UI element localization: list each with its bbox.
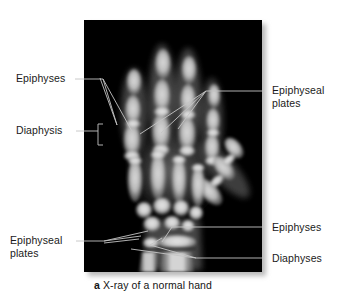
label-epiphyseal-plates-upper-right: Epiphyseal plates <box>272 84 324 109</box>
label-epiphyseal-plates-lower-left: Epiphyseal plates <box>10 234 62 259</box>
figure-root: Epiphyses Diaphysis Epiphyseal plates Ep… <box>0 0 339 304</box>
caption-text: X-ray of a normal hand <box>100 279 212 291</box>
label-diaphysis-left: Diaphysis <box>16 124 62 137</box>
label-epiphyses-lower-right: Epiphyses <box>272 221 321 234</box>
label-epiphyses-upper-left: Epiphyses <box>16 72 65 85</box>
xray-image <box>84 20 262 272</box>
xray-photograph <box>84 20 262 272</box>
figure-caption: a X-ray of a normal hand <box>94 279 212 291</box>
label-diaphyses-lower-right: Diaphyses <box>272 252 322 265</box>
